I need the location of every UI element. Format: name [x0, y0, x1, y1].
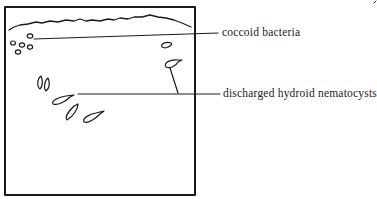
surface-line — [9, 15, 191, 30]
label-coccoid-bacteria: coccoid bacteria — [222, 26, 300, 38]
coccoid-bacteria-cluster — [11, 34, 33, 54]
field-frame — [5, 7, 195, 195]
nematocysts-right — [162, 42, 182, 93]
corner-mark — [374, 1, 376, 3]
label-discharged-hydroid-nematocysts: discharged hydroid nematocysts — [223, 87, 377, 99]
leader-line-coccoid — [34, 33, 218, 39]
nematocysts-left — [38, 76, 104, 122]
diagram-canvas — [0, 0, 377, 199]
